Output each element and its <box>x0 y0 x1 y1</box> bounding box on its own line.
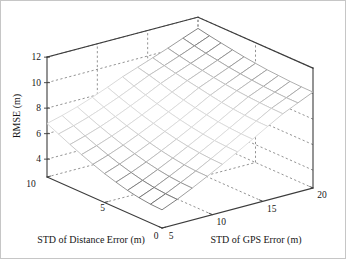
x-tick-label: 10 <box>217 217 227 227</box>
x-tick-label: 15 <box>267 204 277 214</box>
x-tick-label: 20 <box>317 190 327 200</box>
surface-plot-canvas: 468101251015200510 STD of GPS Error (m) … <box>1 1 345 258</box>
surface-plot-figure: 468101251015200510 STD of GPS Error (m) … <box>0 0 346 259</box>
mesh-surface <box>47 28 313 209</box>
y-tick-label: 5 <box>100 203 105 213</box>
z-axis-title: RMSE (m) <box>11 94 23 138</box>
z-tick-label: 6 <box>36 129 41 139</box>
z-tick-label: 10 <box>32 78 42 88</box>
x-tick-label: 5 <box>169 231 174 241</box>
y-tick-label: 10 <box>26 179 36 189</box>
y-tick-label: 0 <box>154 231 159 241</box>
x-axis-title: STD of GPS Error (m) <box>210 234 301 246</box>
z-tick-label: 8 <box>36 103 41 113</box>
z-tick-label: 4 <box>36 154 41 164</box>
y-axis-title: STD of Distance Error (m) <box>37 234 145 246</box>
z-tick-label: 12 <box>32 52 42 62</box>
